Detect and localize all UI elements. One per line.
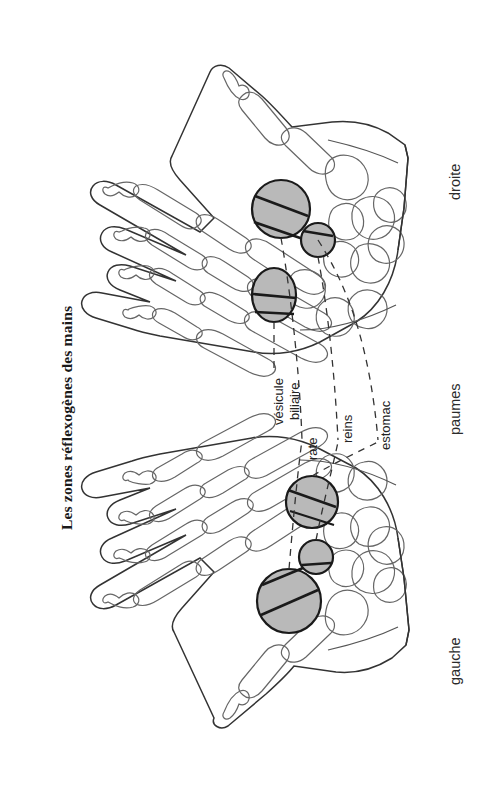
left-hand-outline [82, 436, 409, 727]
organ-label-rate: rate [305, 438, 320, 460]
hand-label-droite: droite [447, 164, 463, 200]
right-hand [82, 65, 408, 376]
hand-label-gauche: gauche [447, 637, 463, 685]
organ-label-estomac: estomac [378, 401, 393, 450]
page-title: Les zones réflexogènes des mains [58, 306, 76, 530]
organ-label-vesicule-line1: vésicule [271, 378, 286, 425]
leader-reins [318, 257, 338, 440]
left-hand [82, 414, 409, 728]
organ-label-vesicule-line2: biliaire [287, 382, 302, 420]
left-finger-bones-2 [114, 499, 253, 563]
zone-rate-right[interactable] [252, 180, 310, 240]
view-label-paumes: paumes [447, 383, 463, 435]
zone-group-right [252, 180, 335, 322]
organ-label-reins: reins [340, 415, 355, 443]
zone-estomac-left[interactable] [286, 476, 338, 528]
zone-reins-left[interactable] [299, 540, 333, 574]
right-finger-bones-4 [123, 306, 202, 340]
left-finger-bones-4 [123, 450, 202, 484]
left-finger-bones-1 [103, 537, 251, 608]
right-finger-bones-2 [114, 227, 253, 291]
figure-page: Les zones réflexogènes des mains droite … [0, 0, 487, 788]
right-finger-bones-1 [103, 182, 251, 253]
right-thumb-bones [223, 71, 335, 174]
